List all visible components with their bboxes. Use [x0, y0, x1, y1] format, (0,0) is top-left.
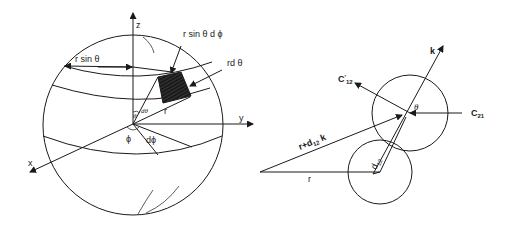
latitude-arc-1: [64, 62, 212, 76]
dphi-label: dϕ: [146, 135, 156, 145]
theta-label-right: θ: [414, 102, 419, 112]
figure-canvas: z y x r sin θ r sin θ d ϕ rd θ r θ dθ ϕ …: [0, 0, 505, 228]
meridian-trace-top: [143, 37, 154, 53]
r-dtheta-label: rd θ: [227, 58, 243, 68]
latitude-arc-3: [43, 136, 222, 154]
sphere-diagram: z y x r sin θ r sin θ d ϕ rd θ r θ dθ ϕ …: [28, 13, 253, 215]
meridian-trace-bottom-2: [146, 186, 179, 213]
dtheta-label: dθ: [141, 107, 149, 115]
k-vector: [373, 46, 443, 174]
c21-label: C21: [471, 108, 485, 119]
k-label: k: [430, 46, 436, 56]
theta-label: θ: [133, 112, 137, 120]
r-sin-theta-dphi-pointer: [171, 46, 181, 73]
x-axis-label: x: [28, 158, 33, 168]
cap-line: [133, 67, 172, 72]
c12-prime-label: C′12: [338, 74, 353, 85]
r-label-right: r: [308, 174, 311, 184]
x-axis: [30, 124, 133, 172]
phi-label: ϕ: [126, 134, 131, 144]
radius-line-upper: [133, 77, 158, 124]
collision-diagram: k C′12 C21 θ r+d12 k r d12: [260, 46, 485, 204]
r-plus-d12k-label: r+d12 k: [297, 132, 328, 153]
r-sin-theta-dphi-label: r sin θ d ϕ: [183, 29, 223, 39]
r-label: r: [164, 106, 167, 116]
d12-band-line: [380, 117, 406, 172]
y-axis-label: y: [239, 113, 244, 123]
r-sin-theta-label: r sin θ: [75, 54, 100, 64]
z-axis-label: z: [136, 20, 141, 30]
